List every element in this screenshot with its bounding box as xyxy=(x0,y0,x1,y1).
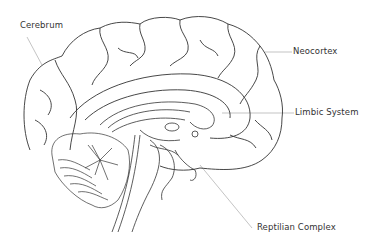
reptilian-leader-line xyxy=(200,165,252,228)
brain-diagram: Cerebrum Neocortex Limbic System Reptili… xyxy=(0,0,371,251)
cerebrum-leader-line xyxy=(27,37,42,65)
leader-lines xyxy=(27,37,294,228)
brain-illustration xyxy=(0,0,371,251)
neocortex-label: Neocortex xyxy=(293,46,338,56)
cerebrum-outline xyxy=(24,17,283,171)
reptilian-complex-label: Reptilian Complex xyxy=(257,222,336,232)
limbic-system-label: Limbic System xyxy=(295,107,359,117)
cerebrum-label: Cerebrum xyxy=(20,20,63,30)
cerebellum xyxy=(52,133,130,208)
